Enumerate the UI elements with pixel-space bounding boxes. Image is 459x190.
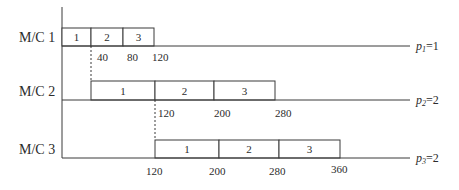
time-tick-label: 280	[269, 165, 286, 177]
processing-param-label: p2=2	[415, 93, 439, 108]
time-tick-label: 80	[127, 51, 139, 63]
job-label: 3	[307, 143, 313, 155]
job-label: 1	[120, 85, 126, 97]
job-label: 1	[74, 31, 80, 43]
time-tick-label: 120	[158, 107, 175, 119]
machine-rows: M/C 1123p1=14080120M/C 2123p2=2120200280…	[19, 28, 439, 177]
job-label: 2	[104, 31, 110, 43]
machine-label: M/C 1	[19, 30, 55, 45]
machine-row: M/C 1123p1=14080120	[19, 28, 439, 63]
job-label: 2	[182, 85, 188, 97]
job-label: 3	[242, 85, 248, 97]
machine-label: M/C 3	[19, 142, 55, 157]
time-tick-label: 280	[275, 107, 292, 119]
machine-label: M/C 2	[19, 84, 55, 99]
job-label: 3	[136, 31, 142, 43]
job-label: 2	[246, 143, 252, 155]
time-tick-label: 120	[146, 165, 163, 177]
time-tick-label: 200	[214, 107, 231, 119]
job-label: 1	[184, 143, 190, 155]
machine-row: M/C 3123p3=2120200280360	[19, 140, 439, 177]
time-tick-label: 360	[331, 163, 348, 175]
time-tick-label: 200	[209, 165, 226, 177]
processing-param-label: p1=1	[415, 39, 439, 54]
processing-param-label: p3=2	[415, 151, 439, 166]
time-tick-label: 40	[97, 51, 109, 63]
gantt-diagram: M/C 1123p1=14080120M/C 2123p2=2120200280…	[0, 0, 459, 190]
time-tick-label: 120	[152, 51, 169, 63]
machine-row: M/C 2123p2=2120200280	[19, 81, 439, 119]
